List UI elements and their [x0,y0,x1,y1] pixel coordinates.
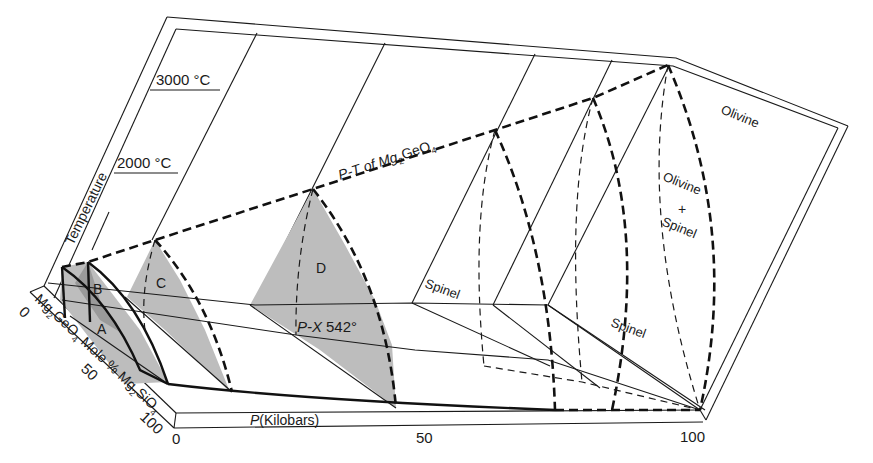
olivine-spinel-label-2: Spinel [660,214,699,241]
spinel-label-1: Spinel [423,276,462,302]
region-a-label: A [97,321,107,337]
olivine-spinel-plus: + [678,201,686,217]
phase-diagram: 3000 °C 2000 °C Temperature [0,0,873,463]
olivine-spinel-label-1: Olivine [661,169,703,198]
spinel-label-2: Spinel [609,315,648,341]
back-grid-lines [152,33,669,305]
region-c-label: C [156,275,166,291]
pressure-tick-100: 100 [680,428,705,445]
pt-curve-label: P-T of Mg2GeO4 [336,136,438,185]
composition-tick-0: 0 [16,303,34,321]
pressure-axis: P(Kilobars) 0 50 100 [172,412,705,447]
composition-tick-100: 100 [137,408,167,438]
temperature-ticks: 3000 °C 2000 °C Temperature [61,71,220,250]
region-d-label: D [316,260,326,276]
tick-3000c: 3000 °C [156,71,211,88]
olivine-label: Olivine [719,102,761,131]
px-curve-label: P-X542° [297,318,357,335]
pressure-tick-50: 50 [416,429,433,446]
region-b-label: B [93,281,102,297]
tick-2000c: 2000 °C [117,154,172,171]
temperature-axis-label: Temperature [61,169,110,247]
pressure-axis-label: P(Kilobars) [250,412,319,428]
pressure-tick-0: 0 [172,430,180,447]
phase-boundaries [144,65,715,410]
